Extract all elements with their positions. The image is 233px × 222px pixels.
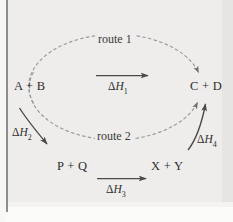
route-2-label: route 2 bbox=[95, 129, 133, 144]
delta-h2-subscript: 2 bbox=[28, 133, 32, 142]
delta-h2-label: ΔH2 bbox=[12, 126, 32, 141]
term-intermediate-left: P + Q bbox=[57, 159, 87, 174]
delta-h4-label: ΔH4 bbox=[197, 133, 217, 148]
delta-h4-symbol: H bbox=[204, 133, 212, 145]
route-1-dashed-arc-right bbox=[137, 36, 199, 73]
term-reactants: A + B bbox=[14, 79, 45, 94]
delta-h4-subscript: 4 bbox=[213, 140, 217, 149]
delta-h3-label: ΔH3 bbox=[106, 183, 126, 198]
enthalpy-cycle-figure: A + B C + D P + Q X + Y route 1 route 2 … bbox=[0, 0, 233, 222]
delta-h3-symbol: H bbox=[113, 183, 121, 195]
term-intermediate-right: X + Y bbox=[151, 159, 183, 174]
delta-h1-label: ΔH1 bbox=[108, 80, 128, 95]
delta-h3-subscript: 3 bbox=[122, 190, 126, 199]
delta-h1-subscript: 1 bbox=[124, 87, 128, 96]
delta-h2-symbol: H bbox=[19, 126, 27, 138]
route-1-label: route 1 bbox=[96, 32, 134, 47]
delta-h1-symbol: H bbox=[115, 80, 123, 92]
term-products: C + D bbox=[190, 79, 222, 94]
route-2-dashed-arc-right bbox=[136, 103, 198, 139]
